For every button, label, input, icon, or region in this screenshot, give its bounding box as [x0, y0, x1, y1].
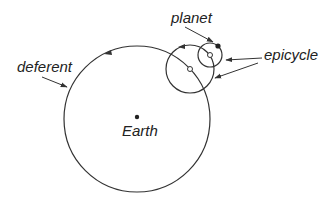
deferent-direction-arrow-icon — [104, 50, 112, 55]
small-epicycle-center — [208, 53, 213, 58]
epicycle-diagram: planet epicycle deferent Earth — [0, 0, 330, 202]
planet-pointer-arrow — [185, 27, 213, 42]
large-epicycle-center — [188, 67, 193, 72]
planet-dot — [215, 43, 220, 48]
deferent-pointer-arrow — [42, 77, 67, 87]
planet-label: planet — [170, 9, 213, 26]
epicycle-pointer-arrow-small — [226, 58, 262, 60]
epicycle-pointer-arrow-large — [215, 63, 258, 78]
earth-dot — [135, 115, 139, 119]
epicycle-label: epicycle — [264, 46, 318, 63]
earth-label: Earth — [122, 122, 158, 139]
deferent-label: deferent — [17, 58, 73, 75]
